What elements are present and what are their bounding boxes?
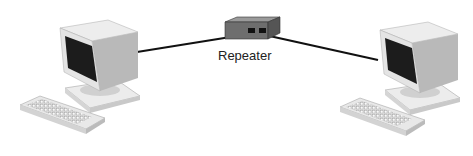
computer-icon-right [340, 22, 460, 136]
computer-icon-left [20, 20, 140, 134]
repeater-icon [225, 17, 280, 39]
network-diagram [0, 0, 473, 156]
repeater-label: Repeater [218, 48, 271, 63]
cable-right [265, 35, 378, 60]
